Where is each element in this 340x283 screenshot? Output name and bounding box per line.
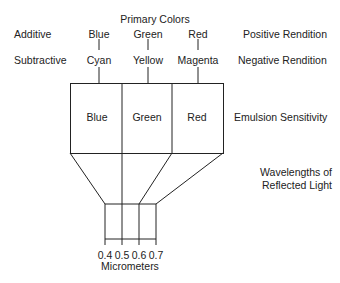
tick-0-7: 0.7 [149, 250, 164, 261]
subtractive-cyan: Cyan [87, 55, 112, 66]
emulsion-sensitivity-label: Emulsion Sensitivity [234, 112, 327, 123]
subtractive-yellow: Yellow [133, 55, 163, 66]
subtractive-label: Subtractive [14, 55, 67, 66]
negative-rendition-label: Negative Rendition [238, 55, 327, 66]
emulsion-red: Red [187, 112, 206, 123]
wavelengths-label-1: Wavelengths of [255, 167, 332, 178]
micrometers-label: Micrometers [101, 261, 159, 272]
additive-green: Green [133, 29, 162, 40]
tick-0-4: 0.4 [98, 250, 113, 261]
tick-0-5: 0.5 [115, 250, 130, 261]
positive-rendition-label: Positive Rendition [243, 29, 327, 40]
additive-red: Red [188, 29, 207, 40]
additive-blue: Blue [88, 29, 109, 40]
subtractive-magenta: Magenta [178, 55, 219, 66]
tick-0-6: 0.6 [132, 250, 147, 261]
diagram-lines [0, 0, 340, 283]
wavelengths-label-2: Reflected Light [255, 180, 332, 191]
additive-label: Additive [14, 29, 51, 40]
emulsion-blue: Blue [86, 112, 107, 123]
diagram-title: Primary Colors [120, 14, 189, 25]
emulsion-green: Green [132, 112, 161, 123]
